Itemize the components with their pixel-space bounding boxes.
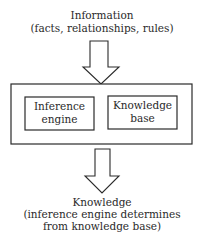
output-title: Knowledge — [72, 196, 131, 208]
input-subtitle: (facts, relationships, rules) — [30, 22, 173, 34]
knowledge-base-label-line1: Knowledge — [113, 99, 172, 111]
output-arrow-icon — [85, 149, 119, 193]
expert-system-diagram: Information (facts, relationships, rules… — [0, 0, 204, 243]
inference-engine-box: Inference engine — [25, 97, 94, 130]
input-title: Information — [70, 9, 133, 21]
output-subtitle-line1: (inference engine determines — [23, 208, 180, 220]
inference-engine-label-line2: engine — [41, 113, 77, 125]
output-subtitle-line2: from knowledge base) — [43, 220, 161, 232]
inference-engine-label-line1: Inference — [34, 100, 85, 112]
input-arrow-icon — [83, 41, 119, 84]
knowledge-base-label-line2: base — [130, 112, 155, 124]
knowledge-base-box: Knowledge base — [108, 96, 177, 129]
